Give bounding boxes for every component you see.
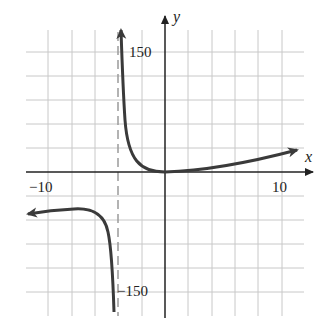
x-axis-label: x: [304, 148, 312, 165]
y-tick-label-150: 150: [129, 44, 152, 60]
x-tick-label-10: 10: [272, 179, 287, 195]
y-axis-label: y: [171, 8, 181, 26]
rational-function-graph: y x −10 10 150 −150: [0, 0, 326, 336]
y-tick-label-neg150: −150: [117, 283, 148, 299]
x-tick-label-neg10: −10: [29, 179, 52, 195]
curve-left-branch: [28, 209, 114, 312]
curve-right-branch: [165, 150, 297, 172]
